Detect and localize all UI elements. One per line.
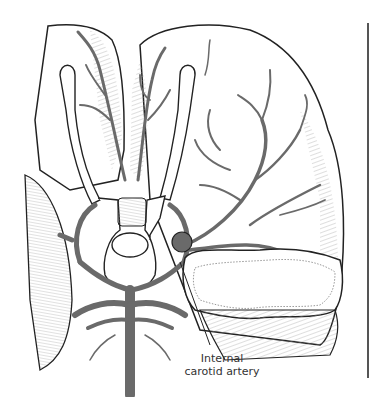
optic-chiasm bbox=[98, 196, 165, 290]
label-line-1: Internal bbox=[172, 352, 272, 365]
anatomy-illustration: Internal carotid artery bbox=[0, 0, 377, 397]
arterial-bulge bbox=[172, 232, 192, 252]
left-temporal-region bbox=[25, 175, 72, 370]
internal-carotid-artery-label: Internal carotid artery bbox=[172, 352, 272, 378]
vertical-divider-rule bbox=[367, 23, 369, 378]
temporal-lobe-section bbox=[183, 249, 342, 360]
label-line-2: carotid artery bbox=[172, 365, 272, 378]
brain-arteries-drawing bbox=[0, 0, 377, 397]
